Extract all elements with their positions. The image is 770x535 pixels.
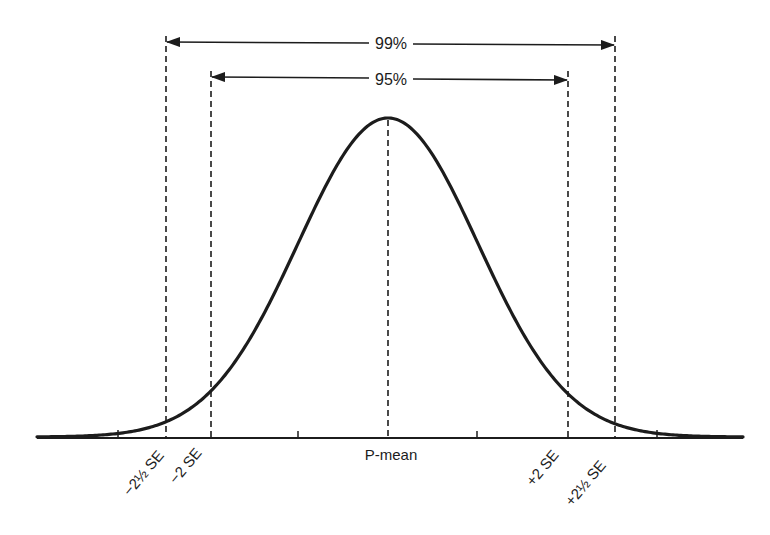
normal-curve <box>37 118 743 437</box>
dashed-guides <box>166 36 615 438</box>
label-mean: P-mean <box>365 446 418 463</box>
label-minus-2-se: −2 SE <box>165 444 205 487</box>
label-minus-2-5-se: −2½ SE <box>119 447 167 499</box>
interval-99-label: 99% <box>375 35 407 52</box>
interval-99-arrow: 99% <box>167 35 614 52</box>
normal-curve-diagram: 99% 95% −2½ SE −2 SE P-mean +2 SE +2½ SE <box>0 0 770 535</box>
label-plus-2-5-se: +2½ SE <box>561 457 609 509</box>
interval-95-label: 95% <box>375 71 407 88</box>
label-plus-2-se: +2 SE <box>522 446 562 489</box>
interval-95-arrow: 95% <box>212 71 567 88</box>
